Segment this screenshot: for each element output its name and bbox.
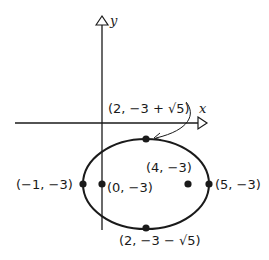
diagram-canvas: y x (2, −3 + √5) (2, −3 − √5) (−1, −3) (… — [0, 0, 269, 260]
x-axis-label: x — [199, 101, 207, 116]
left-vertex-dot — [79, 180, 86, 187]
top-vertex-dot — [142, 135, 149, 142]
left-focus-dot — [98, 180, 105, 187]
x-axis — [15, 117, 207, 129]
right-vertex-dot — [205, 180, 212, 187]
x-axis-arrow-icon — [198, 117, 207, 129]
left-focus-label: (0, −3) — [107, 180, 153, 195]
right-focus-dot — [184, 180, 191, 187]
bottom-vertex-dot — [142, 224, 149, 231]
bottom-vertex-label: (2, −3 − √5) — [119, 233, 201, 248]
y-axis-arrow-icon — [96, 16, 108, 25]
right-vertex-label: (5, −3) — [215, 177, 261, 192]
left-vertex-label: (−1, −3) — [16, 177, 73, 192]
top-vertex-label: (2, −3 + √5) — [108, 101, 190, 116]
y-axis-label: y — [109, 13, 118, 28]
right-focus-label: (4, −3) — [146, 160, 192, 175]
